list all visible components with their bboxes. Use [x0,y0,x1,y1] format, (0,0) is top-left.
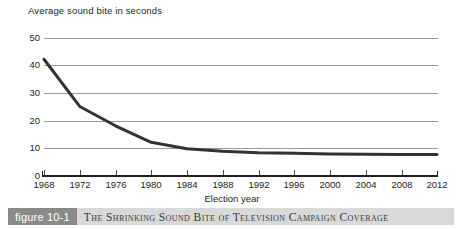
gridline-40 [44,65,438,66]
x-tick-1988 [223,170,224,175]
y-tick-label-10: 10 [16,143,40,152]
gridline-10 [44,148,438,149]
x-tick-label-1984: 1984 [167,179,207,190]
x-tick-2008 [402,170,403,175]
x-axis-title: Election year [182,193,282,204]
plot-area [44,33,438,176]
x-axis-right-cap [437,171,438,176]
y-tick-label-40: 40 [16,60,40,69]
x-tick-label-1968: 1968 [24,179,64,190]
x-axis-line [42,175,438,177]
x-tick-label-2008: 2008 [382,179,422,190]
x-tick-label-1980: 1980 [131,179,171,190]
chart-axis-title: Average sound bite in seconds [28,5,162,16]
x-tick-label-2004: 2004 [346,179,386,190]
x-tick-1992 [259,170,260,175]
x-axis-left-cap [42,171,43,176]
figure-caption-text: The Shrinking Sound Bite of Television C… [77,208,454,225]
x-tick-2000 [330,170,331,175]
figure-number-badge: figure 10-1 [8,208,77,225]
figure-caption-bar: figure 10-1 The Shrinking Sound Bite of … [8,208,454,225]
y-tick-label-20: 20 [16,116,40,125]
x-tick-label-1996: 1996 [274,179,314,190]
x-tick-1968 [44,170,45,175]
gridline-50 [44,38,438,39]
x-tick-1976 [116,170,117,175]
x-tick-1972 [80,170,81,175]
gridline-20 [44,121,438,122]
x-tick-label-1988: 1988 [203,179,243,190]
x-tick-label-1992: 1992 [239,179,279,190]
x-tick-2004 [366,170,367,175]
x-tick-1984 [187,170,188,175]
gridline-30 [44,93,438,94]
y-tick-label-50: 50 [16,33,40,42]
x-tick-1980 [151,170,152,175]
x-tick-label-1972: 1972 [60,179,100,190]
x-tick-label-2012: 2012 [417,179,457,190]
y-tick-label-30: 30 [16,88,40,97]
x-tick-label-1976: 1976 [96,179,136,190]
x-tick-1996 [294,170,295,175]
x-tick-label-2000: 2000 [310,179,350,190]
figure-container: Average sound bite in seconds 50 40 30 2… [0,0,462,229]
